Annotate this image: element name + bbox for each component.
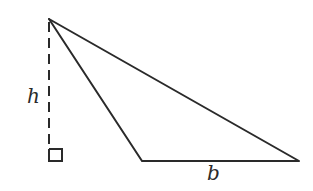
triangle-diagram: h b — [0, 0, 313, 191]
side-apex-to-base-left — [49, 19, 142, 161]
height-label: h — [27, 86, 40, 106]
base-label: b — [207, 163, 220, 183]
right-angle-marker — [49, 149, 62, 161]
side-apex-to-base-right — [49, 19, 299, 161]
triangle-svg — [0, 0, 313, 191]
